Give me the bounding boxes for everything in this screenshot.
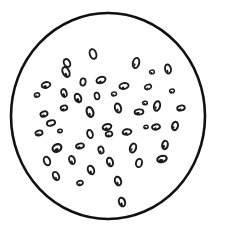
cell-outline: [35, 130, 43, 137]
cell: [149, 70, 154, 75]
cell: [60, 105, 68, 112]
cell-outline: [152, 124, 161, 131]
cell-outline: [111, 92, 116, 96]
cell: [35, 130, 43, 137]
cell: [134, 109, 143, 115]
cell-outline: [94, 92, 100, 100]
cell: [76, 180, 83, 186]
cell-outline: [169, 89, 174, 93]
cell: [169, 89, 174, 93]
figure-root: [0, 0, 226, 236]
cell-outline: [76, 143, 85, 150]
cell-outline: [122, 129, 132, 136]
cell-outline: [80, 78, 86, 86]
cell-outline: [135, 158, 143, 167]
cell: [144, 125, 149, 129]
cell: [135, 158, 143, 167]
cell-outline: [57, 129, 62, 133]
cell-outline: [162, 140, 169, 149]
cell-outline: [134, 109, 143, 115]
cell-outline: [60, 105, 68, 112]
cell-outline: [177, 105, 185, 111]
cell: [122, 129, 132, 136]
cell: [111, 92, 116, 96]
cell-outline: [76, 180, 83, 186]
cell: [142, 101, 147, 105]
cell-outline: [149, 70, 154, 75]
cell-outline: [142, 101, 147, 105]
cell: [177, 105, 185, 111]
cell: [76, 143, 85, 150]
cell: [152, 124, 161, 131]
cell: [57, 129, 62, 133]
cell: [34, 93, 40, 98]
cell-outline: [105, 131, 113, 137]
cell: [105, 131, 113, 137]
cell-outline: [98, 146, 105, 154]
cell: [98, 146, 105, 154]
cell: [80, 78, 86, 86]
cell: [162, 140, 169, 149]
cell: [94, 92, 100, 100]
cell-outline: [34, 93, 40, 98]
field-of-view-diagram: [0, 0, 226, 236]
